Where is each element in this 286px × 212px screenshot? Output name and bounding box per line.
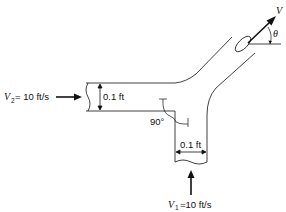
pipe-1-diameter-dimension	[176, 150, 206, 154]
pipe-2-top-wall	[86, 37, 232, 83]
theta-label: θ	[273, 28, 278, 39]
inlet-2-velocity-label: V 2 = 10 ft/s	[4, 91, 49, 104]
angle-90-label: 90°	[150, 116, 165, 127]
inlet-1-arrow	[188, 170, 195, 195]
outlet-velocity-label: V	[276, 5, 284, 16]
inlet-2-arrow	[56, 94, 82, 101]
outlet-velocity-arrow	[248, 16, 276, 43]
pipe-1-break	[175, 160, 207, 164]
theta-arc-arrowhead	[269, 41, 273, 45]
svg-text:1: 1	[175, 204, 179, 211]
pipe-junction-diagram: 0.1 ft 0.1 ft 90° V 2 = 10 ft/s V 1 =10 …	[0, 0, 286, 212]
inlet-1-velocity-label: V 1 =10 ft/s	[168, 199, 212, 211]
svg-text:= 10 ft/s: = 10 ft/s	[15, 91, 49, 102]
pipe-2-diameter-dimension	[98, 84, 102, 110]
pipe-2-diameter-label: 0.1 ft	[103, 91, 124, 102]
svg-text:=10 ft/s: =10 ft/s	[180, 199, 212, 210]
pipe-1-right-wall	[207, 53, 255, 162]
pipe-1-diameter-label: 0.1 ft	[180, 139, 201, 150]
pipe-2-break	[86, 83, 90, 111]
